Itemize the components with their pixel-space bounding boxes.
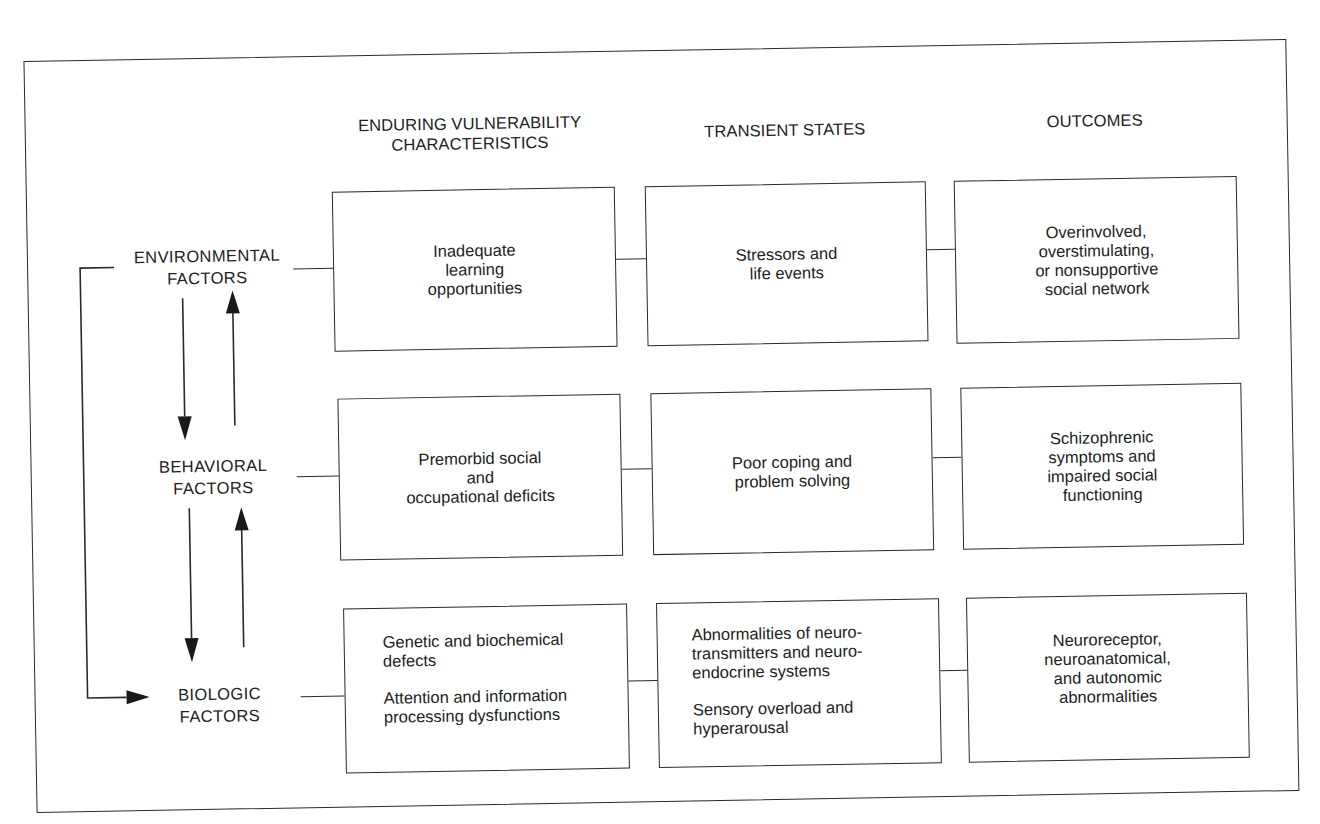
factor-behavioral: BEHAVIORAL FACTORS <box>130 453 296 500</box>
box-text: Stressors and life events <box>735 244 837 284</box>
box-text: Premorbid social and occupational defici… <box>406 447 556 507</box>
column-header-vulnerability: ENDURING VULNERABILITY CHARACTERISTICS <box>324 111 615 156</box>
box-biologic-outcome: Neuroreceptor, neuroanatomical, and auto… <box>966 593 1250 763</box>
factor-biologic: BIOLOGIC FACTORS <box>139 681 300 728</box>
box-text: Inadequate learning opportunities <box>427 240 522 299</box>
diagram-canvas: ENDURING VULNERABILITY CHARACTERISTICS T… <box>0 0 1320 824</box>
factor-environmental: ENVIRONMENTAL FACTORS <box>122 243 293 290</box>
box-behavioral-vulnerability: Premorbid social and occupational defici… <box>337 394 623 561</box>
box-environmental-transient: Stressors and life events <box>645 181 929 346</box>
box-text-neurotransmitters: Abnormalities of neuro- transmitters and… <box>691 623 863 683</box>
box-text-attention: Attention and information processing dys… <box>383 686 567 727</box>
box-text: Schizophrenic symptoms and impaired soci… <box>1047 427 1158 505</box>
box-environmental-outcome: Overinvolved, overstimulating, or nonsup… <box>954 176 1240 344</box>
box-text-sensory: Sensory overload and hyperarousal <box>693 697 864 738</box>
box-biologic-vulnerability: Genetic and biochemical defects Attentio… <box>343 604 630 774</box>
box-behavioral-transient: Poor coping and problem solving <box>650 388 934 555</box>
box-text: Overinvolved, overstimulating, or nonsup… <box>1034 221 1158 299</box>
box-biologic-transient: Abnormalities of neuro- transmitters and… <box>656 598 942 768</box>
box-text-genetic: Genetic and biochemical defects <box>382 630 566 671</box>
box-text: Neuroreceptor, neuroanatomical, and auto… <box>1044 629 1172 707</box>
box-text: Poor coping and problem solving <box>732 452 853 492</box>
box-environmental-vulnerability: Inadequate learning opportunities <box>332 187 618 352</box>
box-behavioral-outcome: Schizophrenic symptoms and impaired soci… <box>960 383 1244 550</box>
